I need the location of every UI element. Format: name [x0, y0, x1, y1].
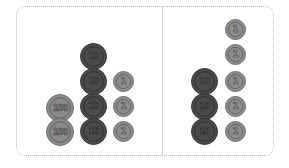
- coin-label: 1: [228, 47, 243, 62]
- coin-1-right: 1: [225, 19, 246, 40]
- coin-1-right: 1: [225, 44, 246, 65]
- coin-label: 100: [49, 97, 70, 118]
- coin-1-left: 1: [113, 71, 134, 92]
- coin-label: 10: [83, 96, 104, 117]
- coin-label: 10: [83, 46, 104, 67]
- coin-label: 100: [49, 121, 70, 142]
- panel-divider: [162, 7, 163, 155]
- coin-1-right: 1: [225, 121, 246, 142]
- coin-label: 1: [116, 74, 131, 89]
- coin-label: 1: [228, 99, 243, 114]
- coin-1-left: 1: [113, 121, 134, 142]
- coin-10-left: 10: [80, 93, 107, 120]
- coin-10-left: 10: [80, 68, 107, 95]
- coin-label: 10: [83, 121, 104, 142]
- coin-10-right: 10: [191, 118, 218, 145]
- coin-10-left: 10: [80, 118, 107, 145]
- coin-label: 10: [194, 121, 215, 142]
- coin-label: 1: [228, 74, 243, 89]
- coin-10-right: 10: [191, 68, 218, 95]
- coin-1-left: 1: [113, 96, 134, 117]
- coin-label: 10: [194, 71, 215, 92]
- coin-10-left: 10: [80, 43, 107, 70]
- coin-10-right: 10: [191, 93, 218, 120]
- coin-1-right: 1: [225, 71, 246, 92]
- coin-label: 10: [194, 96, 215, 117]
- coin-label: 1: [228, 22, 243, 37]
- coin-label: 1: [116, 124, 131, 139]
- coin-label: 10: [83, 71, 104, 92]
- coin-100-left: 100: [46, 118, 74, 146]
- coin-label: 1: [228, 124, 243, 139]
- coin-1-right: 1: [225, 96, 246, 117]
- coin-label: 1: [116, 99, 131, 114]
